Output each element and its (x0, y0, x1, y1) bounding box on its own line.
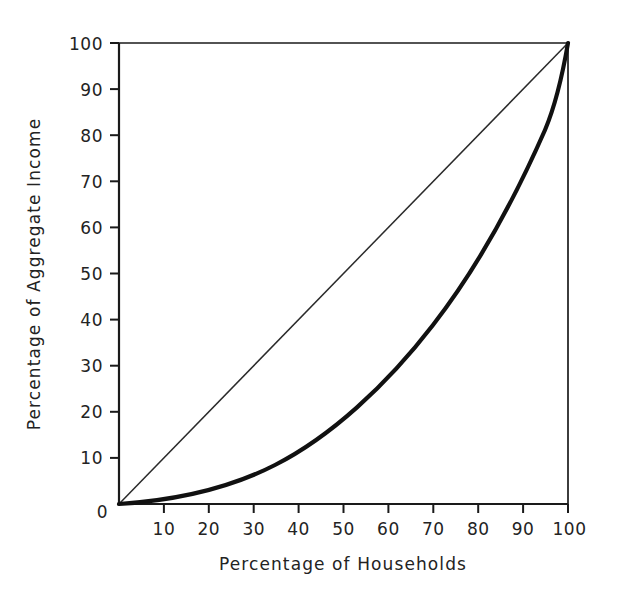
y-tick-label-60: 60 (80, 218, 103, 238)
lorenz-curve-figure: 100 90 80 70 60 50 40 30 20 10 0 10 20 3… (0, 0, 617, 591)
x-tick-label-80: 80 (467, 519, 490, 539)
x-axis-title: Percentage of Households (219, 554, 467, 574)
x-tick-label-70: 70 (422, 519, 445, 539)
y-tick-label-10: 10 (80, 448, 103, 468)
y-tick-label-100: 100 (69, 34, 103, 54)
x-tick-label-60: 60 (377, 519, 400, 539)
y-tick-label-30: 30 (80, 356, 103, 376)
y-tick-label-80: 80 (80, 126, 103, 146)
y-axis-title: Percentage of Aggregate Income (24, 118, 44, 430)
y-tick-label-0: 0 (97, 502, 108, 522)
y-tick-label-20: 20 (80, 402, 103, 422)
x-tick-label-30: 30 (242, 519, 265, 539)
y-tick-label-50: 50 (80, 264, 103, 284)
x-tick-label-40: 40 (287, 519, 310, 539)
chart-canvas: 100 90 80 70 60 50 40 30 20 10 0 10 20 3… (0, 0, 617, 591)
x-tick-label-10: 10 (153, 519, 176, 539)
x-tick-label-50: 50 (332, 519, 355, 539)
x-tick-label-90: 90 (512, 519, 535, 539)
x-tick-label-20: 20 (197, 519, 220, 539)
y-tick-label-90: 90 (80, 80, 103, 100)
x-tick-label-100: 100 (553, 519, 587, 539)
y-tick-label-70: 70 (80, 172, 103, 192)
y-tick-label-40: 40 (80, 310, 103, 330)
